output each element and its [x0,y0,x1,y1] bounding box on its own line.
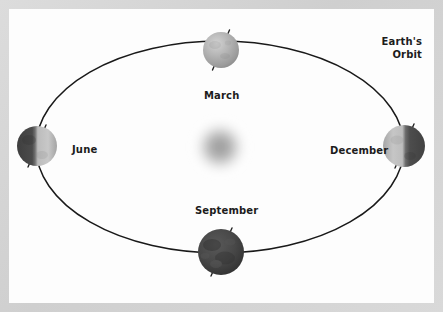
earth-position-march [203,30,239,70]
diagram-canvas: March June September December Earth'sOrb… [9,9,434,303]
earth-sphere-december [383,125,425,167]
orbit-annotation-line1: Earth's [382,36,422,47]
season-label-march: March [204,90,239,102]
season-label-september: September [195,205,258,217]
season-label-december: December [330,145,388,157]
earth-sphere-march [203,32,239,68]
sun [193,120,247,174]
orbit-annotation-line2: Orbit [382,48,422,61]
orbit-annotation-label: Earth'sOrbit [382,35,422,61]
season-label-june: June [72,144,97,156]
earth-position-june [17,125,57,167]
earth-sphere-september [198,229,244,275]
diagram-frame: March June September December Earth'sOrb… [0,0,443,312]
earth-position-december [383,124,425,168]
earth-sphere-june [17,126,57,166]
earth-position-september [198,228,244,276]
